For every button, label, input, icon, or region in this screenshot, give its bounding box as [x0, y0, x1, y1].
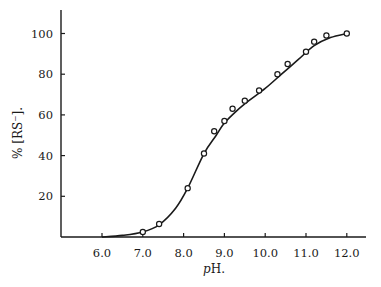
y-tick-label: 40 [38, 149, 53, 163]
y-tick-label: 80 [38, 67, 53, 81]
data-point [140, 229, 145, 234]
x-tick-label: 12.0 [334, 246, 360, 260]
x-tick-label: 10.0 [252, 246, 278, 260]
ph-titration-chart: 6.07.08.09.010.011.012.0 20406080100 pH.… [0, 0, 381, 287]
data-point [303, 49, 308, 54]
data-points [140, 31, 349, 235]
data-point [312, 39, 317, 44]
data-point [242, 98, 247, 103]
data-point [212, 129, 217, 134]
x-tick-label: 8.0 [174, 246, 192, 260]
y-tick-label: 100 [31, 27, 53, 41]
y-tick-label: 60 [38, 108, 53, 122]
data-point [222, 118, 227, 123]
data-point [324, 33, 329, 38]
data-point [256, 88, 261, 93]
data-point [344, 31, 349, 36]
data-point [185, 186, 190, 191]
x-tick-label: 11.0 [293, 246, 319, 260]
axes [61, 10, 366, 237]
y-axis-ticks: 20406080100 [31, 27, 65, 204]
y-tick-label: 20 [38, 189, 53, 203]
fitted-curve [102, 34, 347, 238]
y-axis-label: % [RS⁻]. [11, 107, 25, 159]
x-axis-label: pH. [203, 262, 225, 276]
x-tick-label: 7.0 [134, 246, 152, 260]
data-point [201, 151, 206, 156]
data-point [285, 61, 290, 66]
data-point [157, 221, 162, 226]
x-tick-label: 9.0 [215, 246, 233, 260]
data-point [275, 72, 280, 77]
x-tick-label: 6.0 [93, 246, 111, 260]
data-point [230, 106, 235, 111]
